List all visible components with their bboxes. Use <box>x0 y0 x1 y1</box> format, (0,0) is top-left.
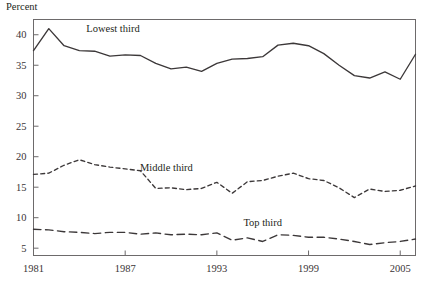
series-label-0: Lowest third <box>86 23 140 34</box>
x-tick-label: 1999 <box>298 263 319 274</box>
x-tick-label: 1993 <box>206 263 227 274</box>
series-label-2: Top third <box>243 217 282 228</box>
line-chart: Percent 510152025303540 1981198719931999… <box>0 0 431 289</box>
y-tick-label: 10 <box>16 212 27 223</box>
x-tick-label: 1981 <box>23 263 44 274</box>
y-tick-label: 40 <box>16 29 27 40</box>
y-tick-label: 30 <box>16 90 27 101</box>
y-tick-label: 35 <box>16 60 27 71</box>
x-tick-label: 1987 <box>115 263 136 274</box>
chart-container: Percent 510152025303540 1981198719931999… <box>0 0 431 289</box>
series-label-1: Middle third <box>140 162 194 173</box>
chart-background <box>0 0 431 289</box>
y-tick-label: 5 <box>21 243 26 254</box>
x-tick-label: 2005 <box>390 263 411 274</box>
y-tick-label: 25 <box>16 121 27 132</box>
y-tick-label: 15 <box>16 182 27 193</box>
y-axis-title: Percent <box>6 1 38 12</box>
y-tick-label: 20 <box>16 151 27 162</box>
